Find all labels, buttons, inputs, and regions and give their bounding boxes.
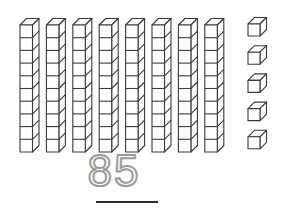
answer-underline (96, 201, 158, 203)
one-cube (248, 74, 267, 93)
ten-rod (20, 19, 39, 153)
number-label: 85 (0, 146, 284, 196)
cube-front-face (248, 109, 260, 121)
cube-front-face (248, 52, 260, 64)
ten-rod (205, 19, 224, 153)
ten-rod (178, 19, 197, 153)
one-cube (248, 46, 267, 64)
ten-rod (152, 19, 171, 153)
one-cube (248, 102, 267, 121)
tens-rods (20, 19, 224, 153)
ten-rod (126, 19, 145, 153)
cube-front-face (248, 24, 260, 36)
ten-rod (46, 19, 65, 153)
number-value: 85 (88, 146, 141, 196)
ones-cubes (248, 18, 267, 149)
cube-front-face (248, 80, 260, 92)
one-cube (248, 18, 267, 37)
ten-rod (99, 19, 118, 153)
ten-rod (73, 19, 92, 153)
